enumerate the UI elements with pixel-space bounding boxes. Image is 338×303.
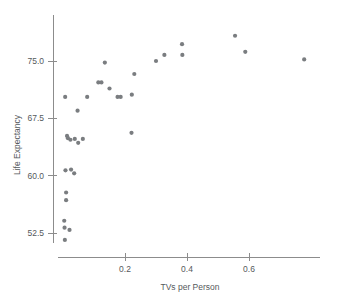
data-point: [68, 138, 72, 142]
data-point: [119, 95, 123, 99]
y-axis-title: Life Expectancy: [12, 114, 22, 175]
data-point: [132, 72, 136, 76]
x-tick-label: 0.2: [119, 264, 131, 274]
data-point: [69, 167, 73, 171]
scatter-plot-figure: 52.560.067.575.0 0.20.40.6 TVs per Perso…: [0, 0, 338, 303]
data-point: [72, 171, 76, 175]
data-point: [130, 93, 134, 97]
data-point: [75, 109, 79, 113]
x-tick-label: 0.4: [181, 264, 193, 274]
data-point: [63, 168, 67, 172]
data-point: [302, 57, 306, 61]
data-point: [63, 95, 67, 99]
x-axis: 0.20.40.6: [58, 253, 320, 274]
data-points-layer: [62, 34, 306, 242]
data-point: [99, 80, 103, 84]
data-point: [64, 190, 68, 194]
data-point: [243, 50, 247, 54]
data-point: [162, 53, 166, 57]
data-point: [180, 53, 184, 57]
x-tick-label: 0.6: [243, 264, 255, 274]
data-point: [81, 137, 85, 141]
data-point: [62, 226, 66, 230]
y-tick-label: 60.0: [27, 171, 44, 181]
y-tick-label: 75.0: [27, 56, 44, 66]
data-point: [64, 198, 68, 202]
data-point: [62, 219, 66, 223]
data-point: [103, 60, 107, 64]
data-point: [63, 238, 67, 242]
plot-canvas: 52.560.067.575.0 0.20.40.6 TVs per Perso…: [0, 0, 338, 303]
data-point: [67, 228, 71, 232]
data-point: [154, 59, 158, 63]
y-axis: 52.560.067.575.0: [27, 15, 57, 243]
data-point: [129, 131, 133, 135]
data-point: [107, 86, 111, 90]
data-point: [76, 141, 80, 145]
data-point: [73, 137, 77, 141]
x-axis-title: TVs per Person: [160, 282, 219, 292]
y-tick-label: 52.5: [27, 228, 44, 238]
data-point: [85, 95, 89, 99]
data-point: [233, 34, 237, 38]
data-point: [180, 42, 184, 46]
y-tick-label: 67.5: [27, 113, 44, 123]
